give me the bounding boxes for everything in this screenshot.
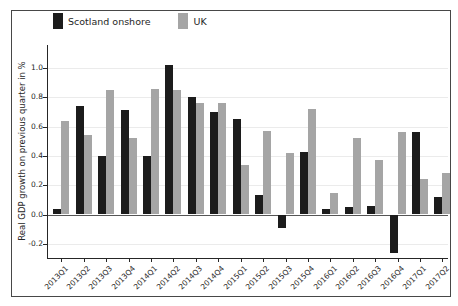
bar-scotland-2017Q1 xyxy=(412,132,420,214)
bar-uk-2016Q3 xyxy=(375,160,383,214)
bar-scotland-2013Q2 xyxy=(76,106,84,214)
bar-scotland-2013Q4 xyxy=(121,110,129,214)
x-tick-2014Q2 xyxy=(173,259,174,262)
x-tick-2015Q3 xyxy=(286,259,287,262)
y-tick-label-0.2: 0.2 xyxy=(13,181,43,189)
x-tick-2017Q2 xyxy=(442,259,443,262)
bar-uk-2014Q2 xyxy=(173,90,181,215)
bar-scotland-2016Q2 xyxy=(345,207,353,214)
x-tick-2014Q4 xyxy=(218,259,219,262)
legend-item-uk: UK xyxy=(178,13,206,29)
y-tick-label-0.8: 0.8 xyxy=(13,93,43,101)
bar-scotland-2015Q1 xyxy=(233,119,241,214)
y-tick-label-0.0: 0.0 xyxy=(13,211,43,219)
bar-scotland-2013Q3 xyxy=(98,156,106,215)
x-tick-2015Q2 xyxy=(263,259,264,262)
bar-uk-2013Q2 xyxy=(84,135,92,214)
bar-uk-2016Q1 xyxy=(330,193,338,215)
x-tick-2014Q1 xyxy=(151,259,152,262)
x-tick-2014Q3 xyxy=(196,259,197,262)
bar-scotland-2015Q4 xyxy=(300,152,308,215)
bar-uk-2017Q1 xyxy=(420,179,428,214)
bar-scotland-2014Q1 xyxy=(143,156,151,215)
bar-scotland-2016Q1 xyxy=(322,209,330,215)
bar-uk-2015Q2 xyxy=(263,131,271,215)
x-tick-2015Q4 xyxy=(308,259,309,262)
gdp-growth-bar-chart: Scotland onshore UK Real GDP growth on p… xyxy=(0,0,458,306)
bar-scotland-2014Q2 xyxy=(165,65,173,214)
bar-uk-2016Q4 xyxy=(398,132,406,214)
bar-scotland-2014Q3 xyxy=(188,97,196,214)
y-axis-spine xyxy=(47,45,48,259)
bar-uk-2015Q4 xyxy=(308,109,316,214)
y-tick-label-0.6: 0.6 xyxy=(13,123,43,131)
y-tick-label-0.4: 0.4 xyxy=(13,152,43,160)
x-tick-2013Q1 xyxy=(61,259,62,262)
scotland-onshore-swatch xyxy=(53,13,63,29)
y-tick-label-1.0: 1.0 xyxy=(13,64,43,72)
bar-uk-2015Q1 xyxy=(241,165,249,215)
bar-uk-2013Q1 xyxy=(61,121,69,215)
gridline-1.0 xyxy=(48,68,448,69)
gridline--0.2 xyxy=(48,244,448,245)
bar-uk-2015Q3 xyxy=(286,153,294,215)
bar-scotland-2016Q4 xyxy=(390,215,398,253)
x-tick-2016Q4 xyxy=(398,259,399,262)
bar-scotland-2015Q2 xyxy=(255,195,263,214)
bar-uk-2014Q1 xyxy=(151,89,159,215)
bar-uk-2013Q3 xyxy=(106,90,114,215)
x-tick-2015Q1 xyxy=(241,259,242,262)
zero-baseline xyxy=(48,215,448,216)
x-tick-2013Q4 xyxy=(129,259,130,262)
legend: Scotland onshore UK xyxy=(53,13,207,29)
bar-uk-2013Q4 xyxy=(129,138,137,214)
legend-label-uk: UK xyxy=(193,16,206,27)
legend-label-scotland-onshore: Scotland onshore xyxy=(68,16,150,27)
y-tick-label--0.2: -0.2 xyxy=(13,240,43,248)
bar-scotland-2014Q4 xyxy=(210,112,218,215)
bar-scotland-2017Q2 xyxy=(434,197,442,215)
bar-uk-2016Q2 xyxy=(353,138,361,214)
x-tick-2016Q2 xyxy=(353,259,354,262)
bar-scotland-2016Q3 xyxy=(367,206,375,215)
x-axis-spine xyxy=(47,258,448,259)
bar-scotland-2015Q3 xyxy=(278,215,286,228)
bar-uk-2017Q2 xyxy=(442,173,450,214)
x-tick-2016Q1 xyxy=(330,259,331,262)
legend-item-scotland-onshore: Scotland onshore xyxy=(53,13,150,29)
x-tick-2016Q3 xyxy=(375,259,376,262)
bar-uk-2014Q3 xyxy=(196,103,204,214)
plot-area: -0.20.00.20.40.60.81.02013Q12013Q22013Q3… xyxy=(48,45,448,258)
x-tick-2013Q3 xyxy=(106,259,107,262)
bar-scotland-2013Q1 xyxy=(53,209,61,215)
x-tick-2017Q1 xyxy=(420,259,421,262)
x-tick-2013Q2 xyxy=(84,259,85,262)
bar-uk-2014Q4 xyxy=(218,103,226,214)
uk-swatch xyxy=(178,13,188,29)
